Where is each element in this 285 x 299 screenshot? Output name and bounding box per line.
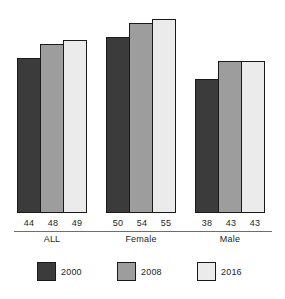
legend-item-2016[interactable]: 2016 [197, 262, 242, 281]
legend-item-2000[interactable]: 2000 [37, 262, 82, 281]
legend-item-2008[interactable]: 2008 [117, 262, 162, 281]
category-label-all: ALL [17, 234, 87, 244]
bar-all-2000 [17, 58, 41, 213]
value-label-all-2016: 49 [65, 218, 89, 228]
bar-all-2016 [63, 40, 87, 213]
bar-male-2016 [241, 61, 265, 213]
bar-male-2000 [195, 79, 219, 213]
bar-female-2016 [152, 19, 176, 213]
value-label-female-2008: 54 [130, 218, 154, 228]
value-label-male-2016: 43 [243, 218, 267, 228]
chart-legend: 2000 2008 2016 [0, 262, 285, 286]
legend-swatch-2016 [197, 262, 216, 281]
category-label-male: Male [195, 234, 265, 244]
legend-label-2016: 2016 [221, 267, 242, 277]
category-label-row: ALL Female Male [0, 234, 285, 250]
value-label-female-2000: 50 [106, 218, 130, 228]
bar-female-2008 [129, 23, 153, 213]
legend-swatch-2000 [37, 262, 56, 281]
bar-all-2008 [40, 44, 64, 213]
value-row-all: 44 48 49 [17, 214, 89, 232]
x-axis-line [14, 231, 272, 232]
value-label-male-2000: 38 [195, 218, 219, 228]
bar-chart: 44 48 49 50 54 55 38 43 43 ALL Fe [0, 0, 285, 299]
value-row-female: 50 54 55 [106, 214, 178, 232]
value-label-all-2000: 44 [17, 218, 41, 228]
bar-group-male [195, 19, 265, 213]
category-label-female: Female [106, 234, 176, 244]
legend-label-2000: 2000 [61, 267, 82, 277]
legend-label-2008: 2008 [141, 267, 162, 277]
value-row-male: 38 43 43 [195, 214, 267, 232]
bar-female-2000 [106, 37, 130, 213]
value-label-male-2008: 43 [219, 218, 243, 228]
value-label-female-2016: 55 [154, 218, 178, 228]
bar-group-all [17, 19, 87, 213]
bar-male-2008 [218, 61, 242, 213]
plot-area: 44 48 49 50 54 55 38 43 43 [0, 0, 285, 232]
legend-swatch-2008 [117, 262, 136, 281]
bar-group-female [106, 19, 176, 213]
value-label-all-2008: 48 [41, 218, 65, 228]
